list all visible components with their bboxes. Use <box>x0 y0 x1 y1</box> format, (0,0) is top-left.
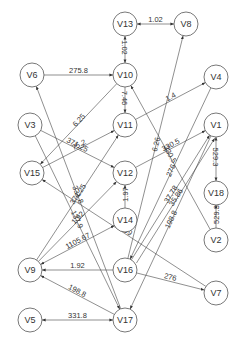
node-label: V5 <box>24 315 35 325</box>
edge-weight-label: 276 <box>163 271 177 283</box>
node-label: V6 <box>26 70 37 80</box>
node-label: V3 <box>24 120 35 130</box>
node-v15: V15 <box>20 161 44 185</box>
node-v5: V5 <box>18 308 42 332</box>
node-v6: V6 <box>20 63 44 87</box>
node-label: V18 <box>208 188 224 198</box>
node-label: V1 <box>210 120 221 130</box>
node-label: V13 <box>117 19 133 29</box>
node-v12: V12 <box>113 161 137 185</box>
node-label: V7 <box>210 288 221 298</box>
edge-weight-label: 529.3 <box>211 148 220 167</box>
node-v1: V1 <box>204 113 228 137</box>
edge-weight-label: 198.8 <box>67 282 88 299</box>
node-v14: V14 <box>113 208 137 232</box>
node-v16: V16 <box>113 258 137 282</box>
node-label: V15 <box>24 168 40 178</box>
edge-weight-label: 198.8 <box>163 209 179 230</box>
node-label: V11 <box>117 120 132 130</box>
node-v7: V7 <box>204 281 228 305</box>
node-v18: V18 <box>204 181 228 205</box>
nodes-layer: V13V8V6V10V4V3V11V1V12V15V18V14V2V9V16V7… <box>18 12 228 332</box>
node-v17: V17 <box>113 308 137 332</box>
node-v9: V9 <box>18 258 42 282</box>
graph-canvas: 1.021.02275.8331.87.466.256.261.4330.537… <box>0 0 249 348</box>
edge-weight-label: 275.8 <box>69 66 88 75</box>
node-label: V9 <box>24 265 35 275</box>
edge-weight-label: 1.02 <box>120 40 129 55</box>
edge-weight-label: 7.46 <box>120 91 129 106</box>
node-v2: V2 <box>204 228 228 252</box>
edge-weight-label: 1.92 <box>70 261 85 270</box>
edge-weight-label: 1.4 <box>164 90 177 103</box>
node-v10: V10 <box>113 63 137 87</box>
edge-weight-label: 1105.67 <box>64 231 92 251</box>
node-label: V14 <box>117 215 133 225</box>
edge-weight-label: 276 <box>164 163 177 178</box>
edge-weight-label: 1.02 <box>148 15 163 24</box>
node-label: V17 <box>117 315 133 325</box>
edge-weight-label: 6.25 <box>71 112 88 129</box>
edge-weight-label: 331.8 <box>68 311 87 320</box>
node-v3: V3 <box>18 113 42 137</box>
node-label: V4 <box>210 72 221 82</box>
edge-weight-label: 529.3 <box>212 205 221 224</box>
node-label: V10 <box>117 70 133 80</box>
node-v13: V13 <box>113 12 137 36</box>
edge-weight-label: 1.97 <box>121 187 130 202</box>
node-label: V12 <box>117 168 133 178</box>
node-label: V16 <box>117 265 133 275</box>
node-v4: V4 <box>204 65 228 89</box>
node-label: V2 <box>210 235 221 245</box>
node-label: V8 <box>180 19 191 29</box>
node-v11: V11 <box>113 113 137 137</box>
node-v8: V8 <box>174 12 198 36</box>
